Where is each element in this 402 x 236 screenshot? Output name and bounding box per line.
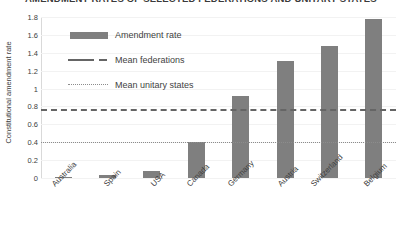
y-axis-tick-label: 1.4 — [16, 48, 38, 57]
bar-belgium[interactable] — [365, 19, 382, 178]
legend-dashed-line-icon — [66, 54, 110, 66]
y-axis-title: Constitutional amendment rate — [1, 0, 15, 184]
reference-line-mean-federations — [41, 109, 396, 111]
gridline — [41, 17, 396, 18]
y-axis-tick-labels: 1.81.61.41.210.80.60.40.20 — [14, 17, 38, 178]
legend-label-mean-unitary-states: Mean unitary states — [115, 80, 194, 90]
gridline — [41, 106, 396, 107]
legend-item-mean-unitary-states: Mean unitary states — [66, 72, 246, 97]
chart-container: AMENDMENT RATES OF SELECTED FEDERATIONS … — [0, 0, 402, 236]
y-axis-tick-label: 1.2 — [16, 66, 38, 75]
y-axis-tick-label: 0.8 — [16, 102, 38, 111]
legend-item-mean-federations: Mean federations — [66, 47, 246, 72]
y-axis-tick-label: 1 — [16, 84, 38, 93]
chart-title: AMENDMENT RATES OF SELECTED FEDERATIONS … — [0, 0, 402, 4]
y-axis-tick-label: 1.8 — [16, 13, 38, 22]
y-axis-tick-label: 1.6 — [16, 30, 38, 39]
legend-label-mean-federations: Mean federations — [115, 55, 185, 65]
legend-dotted-line-icon — [66, 79, 110, 91]
y-axis-title-text: Constitutional amendment rate — [4, 41, 13, 143]
legend-bar-swatch-icon — [66, 29, 110, 41]
y-axis-tick-label: 0.4 — [16, 138, 38, 147]
y-axis-tick-label: 0.6 — [16, 120, 38, 129]
x-axis-category-labels: AustraliaSpainUSACanadaGermanyAustriaSwi… — [41, 179, 396, 236]
bar-austria[interactable] — [277, 61, 294, 178]
legend-label-amendment-rate: Amendment rate — [115, 30, 182, 40]
reference-line-mean-unitary-states — [41, 142, 396, 143]
gridline — [41, 124, 396, 125]
chart-legend: Amendment rate Mean federations Mean uni… — [66, 22, 246, 97]
legend-item-amendment-rate: Amendment rate — [66, 22, 246, 47]
y-axis-tick-label: 0 — [16, 174, 38, 183]
y-axis-tick-label: 0.2 — [16, 156, 38, 165]
